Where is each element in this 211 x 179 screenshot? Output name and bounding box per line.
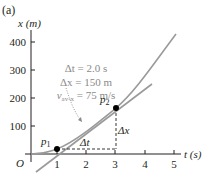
x-ticks: [57, 150, 174, 154]
x-axis-label: t (s): [184, 148, 202, 161]
svg-text:400: 400: [10, 36, 27, 48]
svg-text:300: 300: [10, 64, 27, 76]
p1-label: p1: [40, 135, 51, 149]
x-tick-labels: 1 2 3 4 5: [54, 158, 177, 170]
svg-text:2: 2: [83, 158, 89, 170]
y-ticks: [31, 42, 35, 126]
point-p1: [54, 146, 60, 152]
delta-t-label: Δt: [79, 136, 90, 148]
y-axis-label: x (m): [17, 17, 41, 30]
svg-text:100: 100: [10, 120, 27, 132]
svg-text:200: 200: [10, 92, 27, 104]
svg-text:1: 1: [54, 158, 60, 170]
position-time-graph: (a) x (m) 100 200 300 400 O 1 2 3 4 5 t …: [0, 0, 211, 179]
svg-text:Δx = 150 m: Δx = 150 m: [60, 76, 113, 88]
svg-text:Δt = 2.0 s: Δt = 2.0 s: [65, 62, 108, 74]
point-p2: [113, 105, 119, 111]
svg-text:4: 4: [142, 158, 148, 170]
arrow-head-icon: [78, 117, 82, 122]
svg-text:3: 3: [112, 158, 118, 170]
panel-label: (a): [2, 3, 15, 17]
y-tick-labels: 100 200 300 400: [10, 36, 27, 132]
origin-label: O: [16, 157, 24, 169]
svg-text:5: 5: [171, 158, 177, 170]
annotation-block: Δt = 2.0 s Δx = 150 m vav-x = 75 m/s: [57, 62, 116, 103]
delta-x-label: Δx: [117, 124, 129, 136]
